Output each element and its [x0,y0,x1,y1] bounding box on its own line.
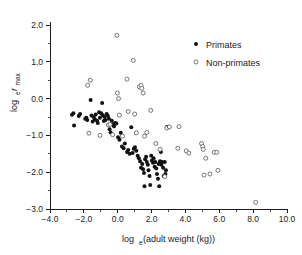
axis-group [46,22,287,213]
data-point-primate [153,160,157,164]
data-point-primate [117,138,121,142]
data-point-primate [85,118,89,122]
data-point-non-primate [216,168,220,172]
legend-marker-non-primates [194,60,198,64]
data-point-non-primate [108,122,112,126]
data-point-non-primate [202,173,206,177]
data-point-non-primate [208,172,212,176]
data-point-non-primate [133,112,137,116]
data-point-non-primate [215,150,219,154]
data-point-non-primate [176,146,180,150]
data-point-primate [129,125,133,129]
x-tick-label: 10.0 [279,214,296,224]
data-point-primate [94,112,98,116]
y-tick-label: 0.0 [31,94,43,104]
x-tick-label: 8.0 [247,214,259,224]
data-point-non-primate [204,156,208,160]
legend-label-non-primates: Non-primates [206,58,261,68]
data-point-non-primate [149,108,153,112]
data-point-primate [123,142,127,146]
data-point-non-primate [125,77,129,81]
data-point-non-primate [167,125,171,129]
y-tick-label: 1.0 [31,57,43,67]
data-point-non-primate [158,147,162,151]
y-axis-title-wrap: log e r max [9,72,21,112]
data-point-primate [104,118,108,122]
legend-group: PrimatesNon-primates [194,40,261,68]
data-point-primate [78,112,82,116]
data-point-non-primate [163,175,167,179]
data-point-primate [154,167,158,171]
legend-label-primates: Primates [206,40,242,50]
legend-marker-primates [194,42,198,46]
x-axis-title-rest: (adult weight (kg)) [143,234,215,244]
data-point-primate [156,177,160,181]
y-axis-title-symbol: r [9,87,19,91]
data-point-primate [164,168,168,172]
data-point-primate [148,183,152,187]
tick-label-group: −4.0−2.00.02.04.06.08.010.0−3.0−2.0−1.00… [26,20,295,224]
data-point-non-primate [120,134,124,138]
x-tick-label: 2.0 [146,214,158,224]
data-point-primate [148,174,152,178]
data-point-non-primate [145,130,149,134]
data-point-primate [141,167,145,171]
data-point-non-primate [177,125,181,129]
data-point-non-primate [86,83,90,87]
data-point-non-primate [131,58,135,62]
y-tick-label: −1.0 [26,130,43,140]
y-tick-label: 2.0 [31,20,43,30]
data-point-non-primate [187,151,191,155]
plot-canvas: −4.0−2.00.02.04.06.08.010.0−3.0−2.0−1.00… [0,0,302,255]
x-tick-label: 0.0 [112,214,124,224]
data-point-primate [126,148,130,152]
data-point-primate [133,145,137,149]
data-point-primate [157,184,161,188]
x-tick-label: 6.0 [213,214,225,224]
y-tick-label: −2.0 [26,167,43,177]
data-point-primate [142,184,146,188]
data-point-primate [131,151,135,155]
data-point-non-primate [154,142,158,146]
data-point-primate [146,163,150,167]
data-point-primate [72,123,76,127]
data-point-non-primate [134,131,138,135]
x-tick-label: 4.0 [180,214,192,224]
data-point-non-primate [254,200,258,204]
data-point-primate [163,160,167,164]
y-axis-title-subscript2: max [14,72,21,85]
data-point-non-primate [117,113,121,117]
data-point-non-primate [126,109,130,113]
data-point-primate [147,168,151,172]
y-axis-title: log [9,100,19,112]
data-point-primate [71,111,75,115]
data-point-non-primate [201,147,205,151]
data-point-non-primate [142,134,146,138]
data-point-non-primate [88,78,92,82]
data-point-non-primate [141,91,145,95]
data-point-non-primate [117,97,121,101]
data-point-primate [144,155,148,159]
data-point-primate [152,156,156,160]
x-tick-label: −4.0 [42,214,59,224]
data-point-primate [155,172,159,176]
data-point-primate [96,121,100,125]
x-tick-label: −2.0 [75,214,92,224]
data-point-non-primate [98,133,102,137]
data-point-non-primate [87,131,91,135]
data-point-non-primate [115,91,119,95]
scatter-plot-figure: −4.0−2.00.02.04.06.08.010.0−3.0−2.0−1.00… [0,0,302,255]
x-axis-title: log [122,234,134,244]
data-point-primate [122,146,126,150]
data-point-primate [100,101,104,105]
y-tick-label: −3.0 [26,204,43,214]
data-point-primate [134,149,138,153]
data-point-non-primate [111,133,115,137]
data-point-non-primate [115,33,119,37]
data-point-primate [142,171,146,175]
data-point-primate [140,162,144,166]
data-point-primate [89,98,93,102]
data-point-primate [114,122,118,126]
data-point-non-primate [140,86,144,90]
